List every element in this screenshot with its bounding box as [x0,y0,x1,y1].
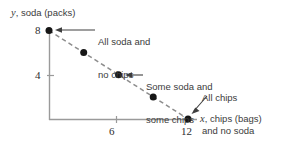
data-point-0-8 [46,27,53,34]
data-point-3-6 [80,49,87,56]
annotation-all-chips: All chips and no soda [202,70,254,146]
annotation-arrow-all-soda [55,27,95,33]
y-tick-label-4: 4 [35,70,41,81]
x-tick-label-6: 6 [109,126,115,137]
annotation-all-soda: All soda and no chips [98,14,150,102]
annotation-all-chips-line2: and no soda [202,125,254,136]
y-tick-label-8: 8 [35,25,41,36]
budget-line-chart: y, soda (packs) x, chips (bags) 8 4 6 12… [0,0,281,146]
y-axis-label-text: , soda (packs) [16,7,76,18]
annotation-all-soda-line1: All soda and [98,36,150,47]
y-axis-label: y, soda (packs) [11,7,75,18]
annotation-all-soda-line2: no chips [98,69,150,80]
annotation-all-chips-line1: All chips [202,92,254,103]
